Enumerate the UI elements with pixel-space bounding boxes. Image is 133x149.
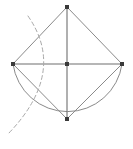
vertex-center bbox=[65, 62, 69, 66]
vertex-bottom bbox=[65, 117, 69, 121]
vertex-left bbox=[11, 62, 15, 66]
vertex-right bbox=[120, 62, 124, 66]
geometry-figure-svg bbox=[0, 0, 133, 149]
vertex-top bbox=[65, 5, 69, 9]
geometry-figure-canvas bbox=[0, 0, 133, 149]
